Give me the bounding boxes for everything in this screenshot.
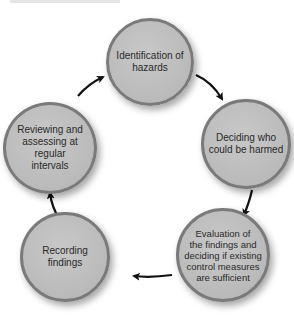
node-label-line: the findings and (184, 239, 262, 250)
node-deciding-who-could-be-harmed: Deciding who could be harmed (201, 99, 291, 189)
node-label-line: Deciding who (209, 132, 284, 144)
node-label-line: Identification of (116, 50, 183, 62)
node-label-line: Evaluation of (184, 228, 262, 239)
node-label-line: are sufficient (184, 272, 262, 283)
node-label-line: intervals (10, 160, 90, 172)
node-label-line: Reviewing and (10, 124, 90, 136)
node-label-line: could be harmed (209, 144, 284, 156)
arrow-deciding-to-evaluation (244, 190, 252, 215)
node-evaluation-of-findings: Evaluation of the findings and deciding … (176, 208, 270, 302)
node-label-line: Recording findings (27, 245, 103, 269)
node-label-line: assessing at regular (10, 136, 90, 160)
arrow-identification-to-deciding (196, 75, 222, 99)
arrow-evaluation-to-recording (134, 275, 172, 277)
node-reviewing-and-assessing: Reviewing and assessing at regular inter… (3, 102, 97, 194)
node-label-line: hazards (116, 62, 183, 74)
node-label-line: control measures (184, 261, 262, 272)
node-identification-of-hazards: Identification of hazards (106, 18, 194, 106)
node-label-line: deciding if existing (184, 250, 262, 261)
node-recording-findings: Recording findings (20, 212, 110, 302)
arrow-review-to-identification (78, 77, 103, 96)
